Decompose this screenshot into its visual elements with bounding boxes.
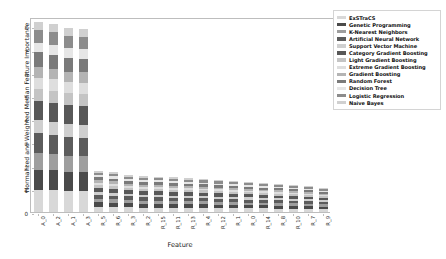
legend-swatch (337, 73, 346, 76)
bar-segment (64, 191, 73, 212)
bar[interactable] (274, 184, 283, 212)
bar-segment (79, 94, 88, 106)
legend-label: Light Gradient Boosting (349, 57, 417, 63)
bar-segment (274, 209, 283, 212)
legend-label: ExSTraCS (349, 15, 375, 21)
legend-item[interactable]: K-Nearest Neighbors (337, 28, 437, 35)
bar-segment (34, 22, 43, 30)
bar[interactable] (184, 178, 193, 212)
x-tick-label: R_13 (190, 216, 196, 229)
bar[interactable] (79, 29, 88, 212)
bar[interactable] (304, 186, 313, 212)
bar[interactable] (259, 183, 268, 212)
bar[interactable] (319, 188, 328, 212)
legend-item[interactable]: Light Gradient Boosting (337, 57, 437, 64)
legend-swatch (337, 16, 346, 19)
legend-item[interactable]: Category Gradient Boosting (337, 49, 437, 56)
bar-segment (169, 208, 178, 212)
bar[interactable] (214, 180, 223, 212)
bar[interactable] (169, 177, 178, 212)
bar-segment (34, 190, 43, 212)
bar[interactable] (124, 175, 133, 212)
legend-label: K-Nearest Neighbors (349, 29, 407, 35)
legend-item[interactable]: Extreme Gradient Boosting (337, 64, 437, 71)
x-tick-mark (98, 214, 99, 216)
bar[interactable] (229, 181, 238, 212)
x-tick-label: R_6 (115, 216, 121, 226)
x-tick-label: R_1 (235, 216, 241, 226)
legend-swatch (337, 23, 346, 26)
bar-segment (79, 29, 88, 37)
bar[interactable] (34, 22, 43, 212)
legend-item[interactable]: Naive Bayes (337, 99, 437, 106)
legend-swatch (337, 94, 346, 97)
bar[interactable] (109, 172, 118, 212)
x-tick-label: R_2 (145, 216, 151, 226)
bar-segment (109, 207, 118, 212)
x-tick-label: R_0 (250, 216, 256, 226)
legend-swatch (337, 58, 346, 61)
x-tick-mark (263, 214, 264, 216)
bar-segment (49, 135, 58, 154)
x-tick-label: R_12 (220, 216, 226, 229)
x-tick-mark (278, 214, 279, 216)
x-tick-label: A_2 (55, 216, 61, 226)
bar[interactable] (49, 24, 58, 212)
legend-item[interactable]: ExSTraCS (337, 14, 437, 21)
x-axis-label: Feature (30, 241, 330, 249)
bar-segment (229, 208, 238, 212)
bar-segment (34, 120, 43, 133)
bar[interactable] (94, 171, 103, 212)
bar-segment (34, 67, 43, 78)
bar[interactable] (244, 182, 253, 212)
legend-swatch (337, 44, 346, 47)
chart-root: Normalized and Weighted Median Feature I… (0, 0, 446, 259)
legend-label: Extreme Gradient Boosting (349, 64, 426, 70)
bar-segment (94, 207, 103, 212)
bar[interactable] (199, 179, 208, 212)
bar-segment (79, 83, 88, 94)
bar-segment (139, 208, 148, 212)
legend-item[interactable]: Random Forest (337, 78, 437, 85)
legend-item[interactable]: Gradient Boosting (337, 71, 437, 78)
bar-segment (154, 208, 163, 212)
legend-label: Random Forest (349, 78, 392, 84)
bar-segment (64, 172, 73, 191)
x-tick-label: A_1 (70, 216, 76, 226)
y-axis-label: Normalized and Weighted Median Feature I… (23, 0, 30, 218)
x-tick-mark (143, 214, 144, 216)
x-tick-label: R_11 (175, 216, 181, 229)
legend-item[interactable]: Genetic Programming (337, 21, 437, 28)
bar[interactable] (139, 176, 148, 212)
legend-item[interactable]: Artificial Neural Network (337, 35, 437, 42)
x-tick-mark (323, 214, 324, 216)
legend-label: Genetic Programming (349, 22, 411, 28)
x-tick-mark (188, 214, 189, 216)
bar-segment (49, 91, 58, 103)
x-axis-ticks: A_0A_2A_1A_3R_5R_6R_3R_2R_15R_11R_13R_4R… (30, 214, 330, 242)
bar-segment (319, 209, 328, 212)
bar[interactable] (64, 27, 73, 212)
bar[interactable] (154, 176, 163, 212)
bar-segment (79, 138, 88, 156)
legend-item[interactable]: Logistic Regression (337, 92, 437, 99)
legend-item[interactable]: Support Vector Machine (337, 42, 437, 49)
bar-segment (64, 93, 73, 105)
x-tick-label: R_15 (160, 216, 166, 229)
x-tick-mark (248, 214, 249, 216)
bar-segment (64, 156, 73, 172)
legend-swatch (337, 87, 346, 90)
bar-segment (49, 45, 58, 55)
bar-segment (49, 79, 58, 90)
bar-segment (304, 209, 313, 212)
bar-segment (79, 156, 88, 172)
bar-segment (64, 48, 73, 57)
bar-segment (64, 28, 73, 36)
bar-segment (79, 106, 88, 125)
legend-item[interactable]: Decision Tree (337, 85, 437, 92)
x-tick-label: R_9 (325, 216, 331, 226)
bar-segment (64, 105, 73, 124)
x-tick-label: R_3 (130, 216, 136, 226)
bar[interactable] (289, 185, 298, 212)
x-tick-label: R_7 (310, 216, 316, 226)
